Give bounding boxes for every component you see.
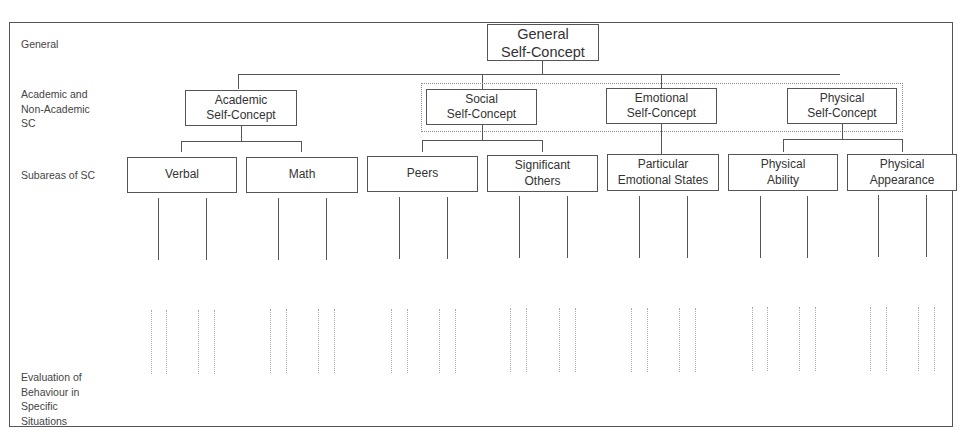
evaluation-line: [799, 307, 800, 371]
connector: [902, 139, 903, 152]
connector: [542, 61, 543, 74]
node-particular-emotional-states: Particular Emotional States: [607, 154, 719, 191]
connector: [278, 198, 279, 260]
evaluation-line: [934, 307, 935, 371]
evaluation-line: [166, 310, 167, 374]
node-label: Physical Self-Concept: [807, 91, 876, 122]
node-peers: Peers: [367, 156, 478, 192]
level-label-academic-nonacademic: Academic and Non-Academic SC: [21, 87, 90, 131]
node-label: Physical Ability: [761, 157, 806, 188]
evaluation-line: [559, 308, 560, 372]
connector: [519, 196, 520, 258]
node-label: Peers: [407, 166, 438, 182]
connector: [687, 196, 688, 258]
connector: [326, 198, 327, 260]
connector: [238, 74, 239, 89]
evaluation-line: [631, 308, 632, 372]
connector: [301, 141, 302, 152]
node-math: Math: [246, 157, 358, 193]
connector: [760, 196, 761, 258]
evaluation-line: [679, 308, 680, 372]
connector: [447, 197, 448, 259]
evaluation-line: [270, 309, 271, 373]
connector: [158, 198, 159, 260]
connector: [206, 198, 207, 260]
node-physical-ability: Physical Ability: [728, 154, 838, 191]
evaluation-line: [151, 310, 152, 374]
evaluation-line: [815, 307, 816, 371]
node-verbal: Verbal: [127, 157, 237, 193]
connector-level1: [238, 74, 840, 75]
node-label: Physical Appearance: [870, 157, 935, 188]
connector: [567, 196, 568, 258]
connector: [807, 196, 808, 258]
evaluation-line: [575, 308, 576, 372]
evaluation-line: [286, 309, 287, 373]
connector: [422, 140, 542, 141]
evaluation-line: [334, 309, 335, 373]
node-label: Academic Self-Concept: [206, 93, 275, 124]
evaluation-line: [510, 308, 511, 372]
connector: [783, 139, 902, 140]
node-label: Verbal: [165, 167, 199, 183]
evaluation-line: [455, 309, 456, 373]
evaluation-line: [439, 309, 440, 373]
level-label-evaluation: Evaluation of Behaviour in Specific Situ…: [21, 370, 82, 428]
node-label: Math: [289, 167, 316, 183]
node-physical-appearance: Physical Appearance: [847, 154, 957, 191]
connector: [661, 124, 662, 154]
evaluation-line: [647, 308, 648, 372]
evaluation-line: [526, 308, 527, 372]
node-academic-self-concept: Academic Self-Concept: [185, 90, 297, 126]
node-label: General Self-Concept: [501, 25, 585, 61]
node-significant-others: Significant Others: [487, 155, 598, 192]
connector: [783, 139, 784, 152]
evaluation-line: [870, 307, 871, 371]
evaluation-line: [198, 310, 199, 374]
evaluation-line: [391, 309, 392, 373]
connector: [542, 140, 543, 152]
evaluation-line: [214, 310, 215, 374]
evaluation-line: [695, 308, 696, 372]
node-general-self-concept: General Self-Concept: [487, 24, 599, 61]
evaluation-line: [918, 307, 919, 371]
level-label-subareas: Subareas of SC: [21, 168, 95, 183]
connector: [482, 125, 483, 140]
level-label-general: General: [21, 37, 58, 52]
node-label: Particular Emotional States: [618, 157, 709, 188]
connector: [842, 124, 843, 139]
evaluation-line: [407, 309, 408, 373]
evaluation-line: [886, 307, 887, 371]
connector: [639, 196, 640, 258]
connector: [878, 195, 879, 257]
connector: [422, 140, 423, 152]
connector: [181, 141, 301, 142]
node-physical-self-concept: Physical Self-Concept: [787, 88, 897, 124]
node-label: Social Self-Concept: [447, 92, 516, 123]
node-social-self-concept: Social Self-Concept: [426, 89, 537, 125]
evaluation-line: [752, 307, 753, 371]
evaluation-line: [767, 307, 768, 371]
connector: [181, 141, 182, 152]
connector: [241, 126, 242, 141]
evaluation-line: [318, 309, 319, 373]
node-label: Emotional Self-Concept: [627, 91, 696, 122]
connector: [399, 197, 400, 259]
connector: [926, 195, 927, 257]
node-emotional-self-concept: Emotional Self-Concept: [606, 88, 717, 124]
node-label: Significant Others: [515, 158, 570, 189]
